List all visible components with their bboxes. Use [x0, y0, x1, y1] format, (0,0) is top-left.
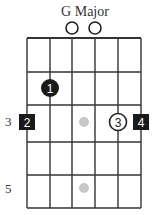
open-string-icon: [89, 22, 101, 34]
fret-marker-dot: [79, 117, 89, 127]
finger-1-marker: 1: [41, 79, 59, 97]
finger-4-marker: 4: [133, 114, 149, 130]
svg-text:4: 4: [138, 116, 145, 130]
finger-3-marker: 3: [110, 114, 127, 131]
svg-text:1: 1: [47, 82, 54, 96]
open-string-icon: [66, 22, 78, 34]
fret-marker-dot: [79, 183, 89, 193]
fret-label-5: 5: [5, 181, 12, 197]
svg-text:3: 3: [115, 116, 122, 130]
svg-text:2: 2: [24, 116, 31, 130]
chord-diagram: 1 2 3 4: [0, 0, 155, 215]
finger-2-marker: 2: [19, 114, 35, 130]
fret-label-3: 3: [5, 114, 12, 130]
